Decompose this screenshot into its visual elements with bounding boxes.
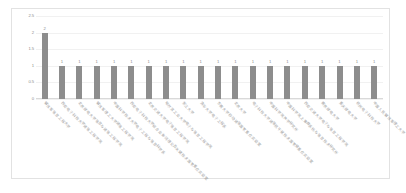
bar-value-label: 1 (373, 60, 375, 64)
bar-value-label: 1 (321, 60, 323, 64)
bar-value-label: 1 (165, 60, 167, 64)
bar-slot: 1 (192, 16, 209, 99)
bar-slot: 1 (157, 16, 174, 99)
bar-value-label: 1 (356, 60, 358, 64)
y-axis-tick-label: 0 (32, 97, 34, 101)
bar-value-label: 1 (304, 60, 306, 64)
bar-value-label: 1 (113, 60, 115, 64)
bar-slot: 1 (279, 16, 296, 99)
chart-frame: 2.521.510.50 21111111111111111111 解放军信息工… (11, 8, 390, 179)
x-label-slot: 中国科学院上海微系统与信息技术研究所 (279, 101, 296, 176)
bar-slot: 1 (140, 16, 157, 99)
bar[interactable] (76, 66, 82, 99)
y-axis-tick-label: 0.5 (28, 80, 34, 84)
bar-slot: 1 (366, 16, 383, 99)
x-label-slot: 浙江大学 (175, 101, 192, 176)
y-axis: 2.521.510.50 (16, 16, 34, 99)
bar-slot: 1 (244, 16, 261, 99)
bar-slot: 1 (314, 16, 331, 99)
bar[interactable] (163, 66, 169, 99)
bar-slot: 1 (105, 16, 122, 99)
bar-slot: 1 (261, 16, 278, 99)
x-label-slot: 电子科技大学通信抗干扰技术国家级重点实验室 (244, 101, 261, 176)
bar-slot: 1 (88, 16, 105, 99)
bar-value-label: 1 (217, 60, 219, 64)
bar-slot: 1 (331, 16, 348, 99)
bar[interactable] (94, 66, 100, 99)
x-label-slot: 中国科学院声学研究所 (261, 101, 278, 176)
bar-value-label: 1 (338, 60, 340, 64)
bar-slot: 1 (348, 16, 365, 99)
bar[interactable] (284, 66, 290, 99)
x-label-slot: 西安电子科技大学综合业务网理论及关键技术国家重点实验室 (123, 101, 140, 176)
bar-value-label: 1 (269, 60, 271, 64)
bar-slot: 2 (36, 16, 53, 99)
bar[interactable] (319, 66, 325, 99)
bar-series: 21111111111111111111 (36, 16, 383, 99)
bar[interactable] (180, 66, 186, 99)
x-label-slot: 南京邮电大学 (314, 101, 331, 176)
bar-value-label: 1 (286, 60, 288, 64)
bar[interactable] (337, 66, 343, 99)
x-label-slot: 北京交通大学电子信息工程学院 (140, 101, 157, 176)
bar-slot: 1 (53, 16, 70, 99)
bar[interactable] (198, 66, 204, 99)
x-axis-category-label: 中国人民解放军理工大学 (372, 102, 406, 136)
bar-slot: 1 (227, 16, 244, 99)
bar-slot: 1 (209, 16, 226, 99)
y-axis-tick-label: 2.5 (28, 14, 34, 18)
x-axis-category-labels: 解放军信息工程大学西安电子科技大学通信工程学院北京邮电大学信息与通信工程学院解放… (36, 101, 383, 176)
plot-area: 21111111111111111111 (36, 16, 383, 99)
bar-value-label: 1 (200, 60, 202, 64)
x-label-slot: 解放军信息工程大学 (36, 101, 53, 176)
bar[interactable] (215, 66, 221, 99)
bar[interactable] (232, 66, 238, 99)
bar-value-label: 1 (130, 60, 132, 64)
x-label-slot: 北京邮电大学信息与通信工程学院 (71, 101, 88, 176)
bar-slot: 1 (175, 16, 192, 99)
bar-slot: 1 (296, 16, 313, 99)
x-label-slot: 西安交通大学电子与信息工程学院 (296, 101, 313, 176)
bar-value-label: 1 (182, 60, 184, 64)
y-axis-tick-label: 2 (32, 30, 34, 34)
gridline (36, 99, 383, 100)
bar-value-label: 1 (148, 60, 150, 64)
bar-slot: 1 (123, 16, 140, 99)
bar[interactable] (146, 66, 152, 99)
x-label-slot: 北京大学 (227, 101, 244, 176)
x-label-slot: 东南大学移动通信国家重点实验室 (209, 101, 226, 176)
y-axis-tick-label: 1 (32, 64, 34, 68)
bar[interactable] (354, 66, 360, 99)
y-axis-tick-label: 1.5 (28, 47, 34, 51)
bar-value-label: 1 (252, 60, 254, 64)
bar[interactable] (42, 33, 48, 99)
bar[interactable] (111, 66, 117, 99)
x-label-slot: 重庆邮电大学 (331, 101, 348, 176)
x-label-slot: 杭州电子科技大学 (348, 101, 365, 176)
x-label-slot: 清华大学电子工程系 (192, 101, 209, 176)
bar[interactable] (267, 66, 273, 99)
bar[interactable] (371, 66, 377, 99)
x-label-slot: 哈尔滨工业大学电子与信息工程学院 (157, 101, 174, 176)
bar[interactable] (250, 66, 256, 99)
x-label-slot: 解放军理工大学通信工程学院 (88, 101, 105, 176)
bar-value-label: 1 (78, 60, 80, 64)
bar[interactable] (302, 66, 308, 99)
bar[interactable] (59, 66, 65, 99)
bar-value-label: 1 (61, 60, 63, 64)
bar-slot: 1 (71, 16, 88, 99)
bar-value-label: 1 (96, 60, 98, 64)
x-label-slot: 西安电子科技大学通信工程学院 (53, 101, 70, 176)
x-label-slot: 中国人民解放军理工大学 (366, 101, 383, 176)
bar-value-label: 2 (44, 27, 46, 31)
bar-value-label: 1 (234, 60, 236, 64)
bar[interactable] (128, 66, 134, 99)
x-label-slot: 中国科学技术大学电子工程与信息科学系 (105, 101, 122, 176)
chart-plot-wrapper: 2.521.510.50 21111111111111111111 解放军信息工… (12, 9, 391, 180)
